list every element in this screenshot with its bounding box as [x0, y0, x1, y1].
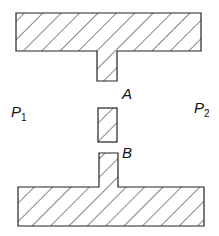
gap-b-label: B [122, 145, 132, 160]
p2-label: P2 [194, 100, 210, 119]
p1-label: P1 [11, 104, 27, 123]
gap-a-label: A [122, 86, 132, 101]
top-electrode [16, 13, 201, 81]
bottom-electrode [18, 153, 204, 226]
diagram-canvas [0, 0, 219, 236]
middle-block [98, 108, 117, 142]
